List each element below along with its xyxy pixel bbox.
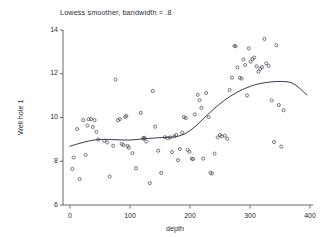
data-point-marker: [242, 58, 245, 61]
y-tick-label: 14: [39, 26, 58, 33]
data-point-marker: [270, 99, 273, 102]
data-point-marker: [280, 145, 283, 148]
data-point-marker: [200, 106, 203, 109]
data-point-marker: [95, 130, 98, 133]
y-axis-title: Well hole 1: [16, 100, 25, 135]
data-point-marker: [151, 89, 154, 92]
data-point-marker: [263, 37, 266, 40]
data-point-marker: [91, 125, 94, 128]
data-point-marker: [78, 177, 81, 180]
data-point-marker: [170, 151, 173, 154]
data-point-marker: [72, 156, 75, 159]
data-point-marker: [202, 157, 205, 160]
data-point-marker: [112, 144, 115, 147]
data-point-marker: [245, 94, 248, 97]
data-point-marker: [93, 119, 96, 122]
data-point-marker: [228, 88, 231, 91]
data-point-marker: [176, 159, 179, 162]
data-point-marker: [86, 124, 89, 127]
data-point-marker: [154, 125, 157, 128]
y-tick-label: 6: [39, 201, 58, 208]
data-point-marker: [196, 93, 199, 96]
data-point-marker: [139, 111, 142, 114]
data-point-marker: [272, 140, 275, 143]
data-point-marker: [131, 152, 134, 155]
x-tick-label: 100: [115, 212, 145, 219]
data-point-marker: [186, 148, 189, 151]
data-point-marker: [76, 128, 79, 131]
data-point-marker: [157, 149, 160, 152]
data-point-marker: [188, 150, 191, 153]
y-tick-label: 12: [39, 69, 58, 76]
data-point-marker: [181, 131, 184, 134]
data-point-marker: [71, 167, 74, 170]
data-point-marker: [247, 47, 250, 50]
data-point-marker: [198, 99, 201, 102]
y-tick-label: 10: [39, 113, 58, 120]
data-point-marker: [275, 44, 278, 47]
data-point-marker: [205, 91, 208, 94]
x-tick-label: 0: [55, 212, 85, 219]
data-point-marker: [84, 153, 87, 156]
lowess-curve: [70, 81, 307, 146]
x-tick-label: 200: [175, 212, 205, 219]
scatter-markers-group: [71, 37, 285, 184]
data-point-marker: [160, 171, 163, 174]
data-point-marker: [267, 64, 270, 67]
data-point-marker: [106, 141, 109, 144]
data-point-marker: [148, 182, 151, 185]
data-point-marker: [178, 147, 181, 150]
y-tick-label: 8: [39, 157, 58, 164]
data-point-marker: [244, 63, 247, 66]
data-point-marker: [236, 66, 239, 69]
data-point-marker: [213, 152, 216, 155]
data-point-marker: [114, 78, 117, 81]
chart-figure: Lowess smoother, bandwidth = .8 68101214…: [0, 0, 331, 237]
data-point-marker: [134, 167, 137, 170]
data-point-marker: [193, 113, 196, 116]
data-point-marker: [230, 76, 233, 79]
x-tick-label: 400: [295, 212, 325, 219]
data-point-marker: [207, 116, 210, 119]
x-tick-label: 300: [235, 212, 265, 219]
x-axis-title: depth: [166, 224, 184, 233]
data-point-marker: [265, 62, 268, 65]
data-point-marker: [282, 109, 285, 112]
data-point-marker: [145, 140, 148, 143]
data-point-marker: [255, 65, 258, 68]
data-point-marker: [277, 103, 280, 106]
data-point-marker: [223, 134, 226, 137]
data-point-marker: [108, 175, 111, 178]
data-point-marker: [226, 137, 229, 140]
data-point-marker: [82, 119, 85, 122]
